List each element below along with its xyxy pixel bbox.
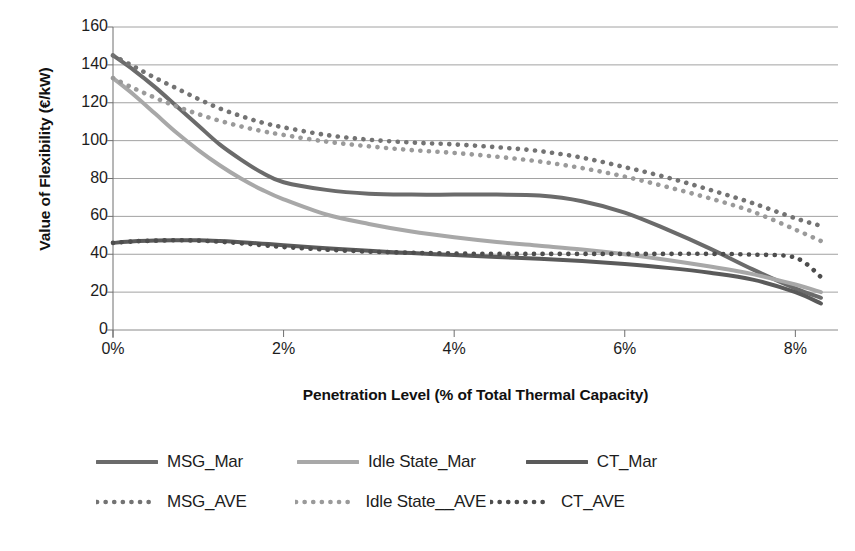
legend-label: Idle State__AVE [366,492,487,512]
chart-legend: MSG_MarIdle State_MarCT_Mar MSG_AVEIdle … [96,443,796,523]
legend-item[interactable]: CT_AVE [490,492,625,512]
legend-swatch-solid-icon [526,455,588,469]
legend-item[interactable]: MSG_AVE [96,492,247,512]
legend-item[interactable]: CT_Mar [526,452,657,472]
data-series-layer [113,55,821,303]
legend-swatch-dotted-icon [490,495,552,509]
legend-label: CT_AVE [561,492,625,512]
x-tick-label: 6% [613,340,636,358]
legend-swatch-dotted-icon [96,495,158,509]
legend-swatch-solid-icon [96,455,158,469]
legend-label: MSG_AVE [167,492,247,512]
legend-label: CT_Mar [597,452,657,472]
legend-item[interactable]: Idle State__AVE [295,492,487,512]
x-tick-label: 2% [272,340,295,358]
series-line-msg-mar [113,55,821,297]
chart-figure: Value of Flexibility (€/kW) Penetration … [0,0,855,551]
gridlines [113,27,838,330]
legend-label: MSG_Mar [167,452,243,472]
legend-swatch-dotted-icon [295,495,357,509]
legend-item[interactable]: MSG_Mar [96,452,243,472]
legend-label: Idle State_Mar [368,452,476,472]
legend-row-average: MSG_AVEIdle State__AVECT_AVE [96,485,796,519]
x-tick-label: 4% [443,340,466,358]
x-tick-label: 8% [784,340,807,358]
legend-row-marginal: MSG_MarIdle State_MarCT_Mar [96,445,796,479]
legend-swatch-solid-icon [297,455,359,469]
legend-item[interactable]: Idle State_Mar [297,452,476,472]
axis-ticks [107,27,795,337]
x-tick-label: 0% [101,340,124,358]
plot-area [0,0,855,400]
